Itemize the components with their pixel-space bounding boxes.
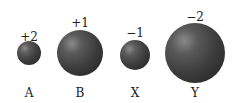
charge-label: +1	[71, 17, 89, 29]
ion-sphere-icon	[17, 41, 41, 65]
ion-sphere-icon	[165, 23, 225, 83]
ion-letter-label: A	[25, 87, 34, 99]
charge-label: −1	[126, 27, 144, 39]
ion-letter-label: Y	[191, 87, 199, 99]
ion-sphere-icon	[120, 40, 150, 70]
ion-letter-label: B	[76, 87, 85, 99]
ion-letter-label: X	[131, 87, 140, 99]
ion-sphere-icon	[57, 30, 103, 76]
charge-label: −2	[186, 11, 204, 23]
